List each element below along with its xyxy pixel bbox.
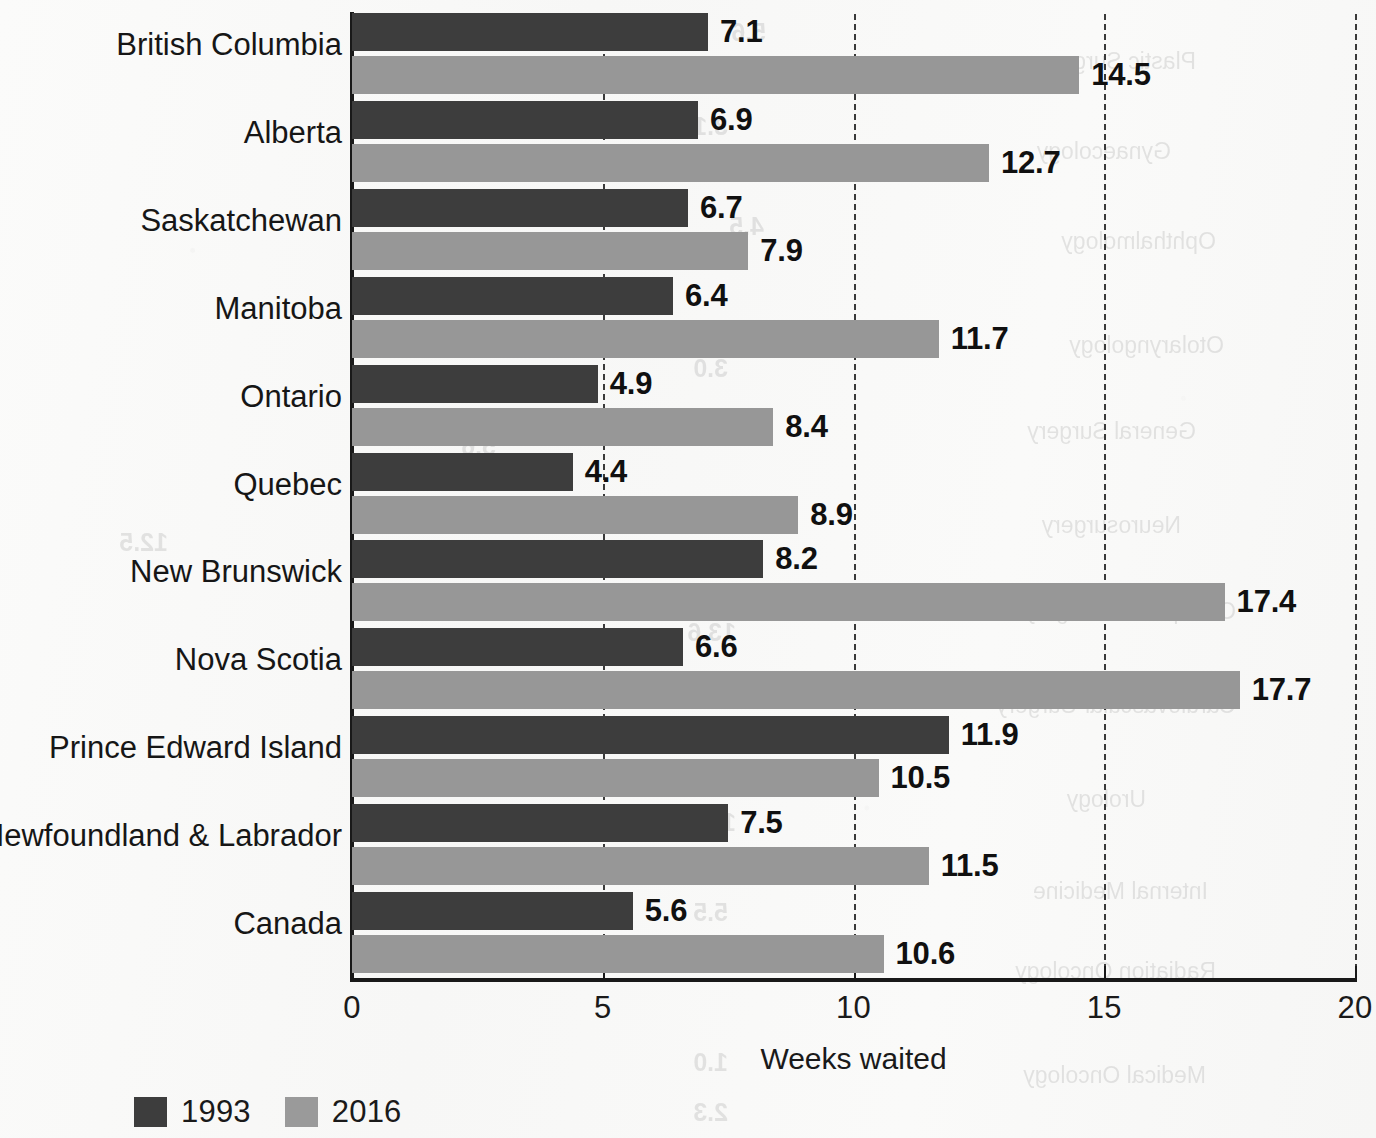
horizontal-grouped-bar-chart: Weeks waited 1993 2016 05101520British C… [0, 0, 1376, 1138]
bar-rect [352, 540, 763, 578]
bar-2016: 10.6 [352, 935, 1355, 973]
bar-2016: 8.9 [352, 496, 1355, 534]
bar-rect [352, 583, 1225, 621]
bar-rect [352, 716, 949, 754]
bar-rect [352, 935, 884, 973]
bar-2016: 12.7 [352, 144, 1355, 182]
bar-rect [352, 804, 728, 842]
bar-value-label: 6.7 [700, 189, 743, 227]
bar-value-label: 8.9 [810, 496, 853, 534]
bar-2016: 7.9 [352, 232, 1355, 270]
x-tick-label-20: 20 [1337, 990, 1372, 1026]
bar-2016: 17.4 [352, 583, 1355, 621]
bar-rect [352, 408, 773, 446]
bar-value-label: 11.9 [961, 716, 1019, 754]
bar-rect [352, 277, 673, 315]
bar-2016: 10.5 [352, 759, 1355, 797]
bar-1993: 4.9 [352, 365, 1355, 403]
bar-value-label: 12.7 [1001, 144, 1061, 182]
bar-value-label: 6.9 [710, 101, 753, 139]
legend-swatch-2016 [285, 1097, 318, 1127]
bar-1993: 8.2 [352, 540, 1355, 578]
bar-rect [352, 365, 598, 403]
category-label: Nova Scotia [175, 644, 342, 675]
category-label: Canada [233, 908, 342, 939]
bar-rect [352, 453, 573, 491]
bar-value-label: 6.4 [685, 277, 728, 315]
x-tick-label-15: 15 [1087, 990, 1122, 1026]
bar-value-label: 10.5 [891, 759, 951, 797]
bar-value-label: 17.4 [1237, 583, 1297, 621]
bar-value-label: 8.2 [775, 540, 818, 578]
category-label: Saskatchewan [140, 205, 342, 236]
legend-label-2016: 2016 [332, 1094, 402, 1130]
x-tick-label-0: 0 [343, 990, 361, 1026]
bar-rect [352, 232, 748, 270]
bar-value-label: 4.4 [585, 453, 628, 491]
category-label: New Brunswick [130, 556, 342, 587]
bar-2016: 11.7 [352, 320, 1355, 358]
bar-rect [352, 189, 688, 227]
bar-rect [352, 892, 633, 930]
bar-value-label: 6.6 [695, 628, 738, 666]
category-label: Newfoundland & Labrador [0, 820, 342, 851]
bar-rect [352, 13, 708, 51]
bar-value-label: 5.6 [645, 892, 688, 930]
bar-rect [352, 671, 1240, 709]
legend-label-1993: 1993 [181, 1094, 251, 1130]
bar-rect [352, 320, 939, 358]
category-label: Quebec [233, 469, 342, 500]
category-label: British Columbia [116, 29, 342, 60]
bar-rect [352, 56, 1079, 94]
bar-value-label: 7.5 [740, 804, 783, 842]
bar-value-label: 7.9 [760, 232, 803, 270]
gridline-20 [1355, 14, 1357, 980]
bar-1993: 6.4 [352, 277, 1355, 315]
x-tick-label-5: 5 [594, 990, 612, 1026]
bar-1993: 11.9 [352, 716, 1355, 754]
bar-1993: 6.9 [352, 101, 1355, 139]
x-tick-20 [1355, 966, 1357, 980]
bar-1993: 6.6 [352, 628, 1355, 666]
bar-rect [352, 628, 683, 666]
bar-2016: 17.7 [352, 671, 1355, 709]
bar-rect [352, 496, 798, 534]
x-axis-title: Weeks waited [352, 1042, 1355, 1076]
category-label: Prince Edward Island [49, 732, 342, 763]
category-label: Alberta [244, 117, 342, 148]
bar-value-label: 10.6 [896, 935, 956, 973]
bar-value-label: 14.5 [1091, 56, 1151, 94]
bar-value-label: 7.1 [720, 13, 763, 51]
bar-value-label: 11.7 [951, 320, 1009, 358]
bar-rect [352, 847, 929, 885]
bar-value-label: 8.4 [785, 408, 828, 446]
bar-rect [352, 101, 698, 139]
bar-1993: 6.7 [352, 189, 1355, 227]
legend-swatch-1993 [134, 1097, 167, 1127]
bar-1993: 7.5 [352, 804, 1355, 842]
bar-value-label: 17.7 [1252, 671, 1312, 709]
category-label: Manitoba [214, 293, 342, 324]
category-label: Ontario [240, 381, 342, 412]
chart-legend: 1993 2016 [134, 1094, 402, 1130]
bar-rect [352, 144, 989, 182]
bar-1993: 4.4 [352, 453, 1355, 491]
bar-value-label: 11.5 [941, 847, 999, 885]
legend-item-2016: 2016 [285, 1094, 402, 1130]
bar-2016: 8.4 [352, 408, 1355, 446]
legend-item-1993: 1993 [134, 1094, 251, 1130]
bar-1993: 7.1 [352, 13, 1355, 51]
bar-2016: 11.5 [352, 847, 1355, 885]
bar-2016: 14.5 [352, 56, 1355, 94]
bar-value-label: 4.9 [610, 365, 653, 403]
bar-rect [352, 759, 879, 797]
bar-1993: 5.6 [352, 892, 1355, 930]
x-tick-label-10: 10 [836, 990, 871, 1026]
